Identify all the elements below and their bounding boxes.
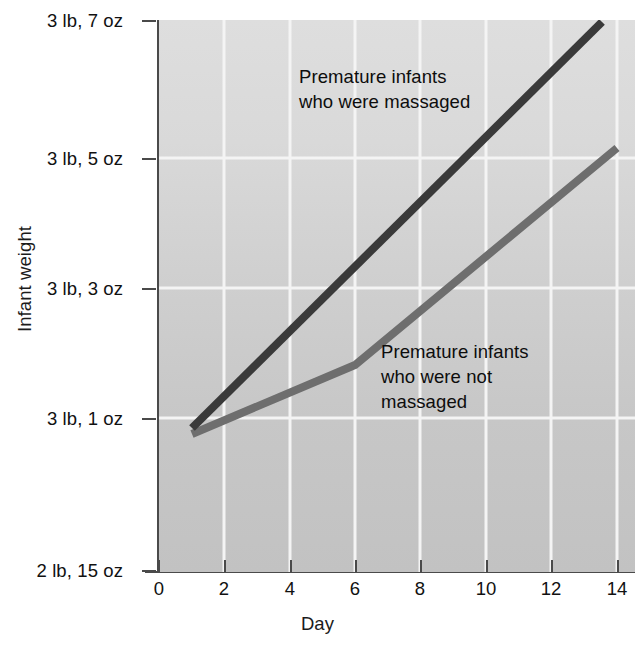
chart-figure: Infant weight 3 lb, 7 oz 3 lb, 5 oz 3 lb…	[0, 0, 635, 648]
x-tick-mark	[551, 560, 553, 573]
y-tick-label: 3 lb, 1 oz	[3, 408, 123, 430]
x-tick-label: 14	[587, 578, 635, 600]
x-tick-label: 2	[194, 578, 254, 600]
plot-area: Premature infants who were massaged Prem…	[159, 20, 635, 572]
series-annotation-massaged: Premature infants who were massaged	[299, 64, 470, 114]
series-annotation-not-massaged: Premature infants who were not massaged	[381, 339, 529, 414]
y-axis-tick-label-group: 3 lb, 7 oz 3 lb, 5 oz 3 lb, 3 oz 3 lb, 1…	[0, 0, 123, 648]
x-tick-label: 4	[260, 578, 320, 600]
x-tick-label: 0	[129, 578, 189, 600]
x-tick-label: 12	[521, 578, 581, 600]
x-tick-mark	[158, 560, 160, 573]
y-tick-mark	[142, 158, 156, 160]
y-tick-label: 2 lb, 15 oz	[3, 560, 123, 582]
y-tick-label: 3 lb, 5 oz	[3, 148, 123, 170]
x-tick-mark	[355, 560, 357, 573]
y-tick-mark	[142, 288, 156, 290]
x-tick-label: 10	[456, 578, 516, 600]
x-tick-label: 8	[390, 578, 450, 600]
y-tick-label: 3 lb, 3 oz	[3, 278, 123, 300]
x-tick-mark	[420, 560, 422, 573]
y-tick-mark	[142, 20, 156, 22]
x-tick-mark	[224, 560, 226, 573]
x-tick-mark	[617, 560, 619, 573]
y-tick-mark	[142, 418, 156, 420]
x-tick-mark	[290, 560, 292, 573]
x-tick-mark	[486, 560, 488, 573]
y-tick-label: 3 lb, 7 oz	[3, 10, 123, 32]
x-tick-label: 6	[325, 578, 385, 600]
x-axis-title: Day	[0, 613, 635, 635]
